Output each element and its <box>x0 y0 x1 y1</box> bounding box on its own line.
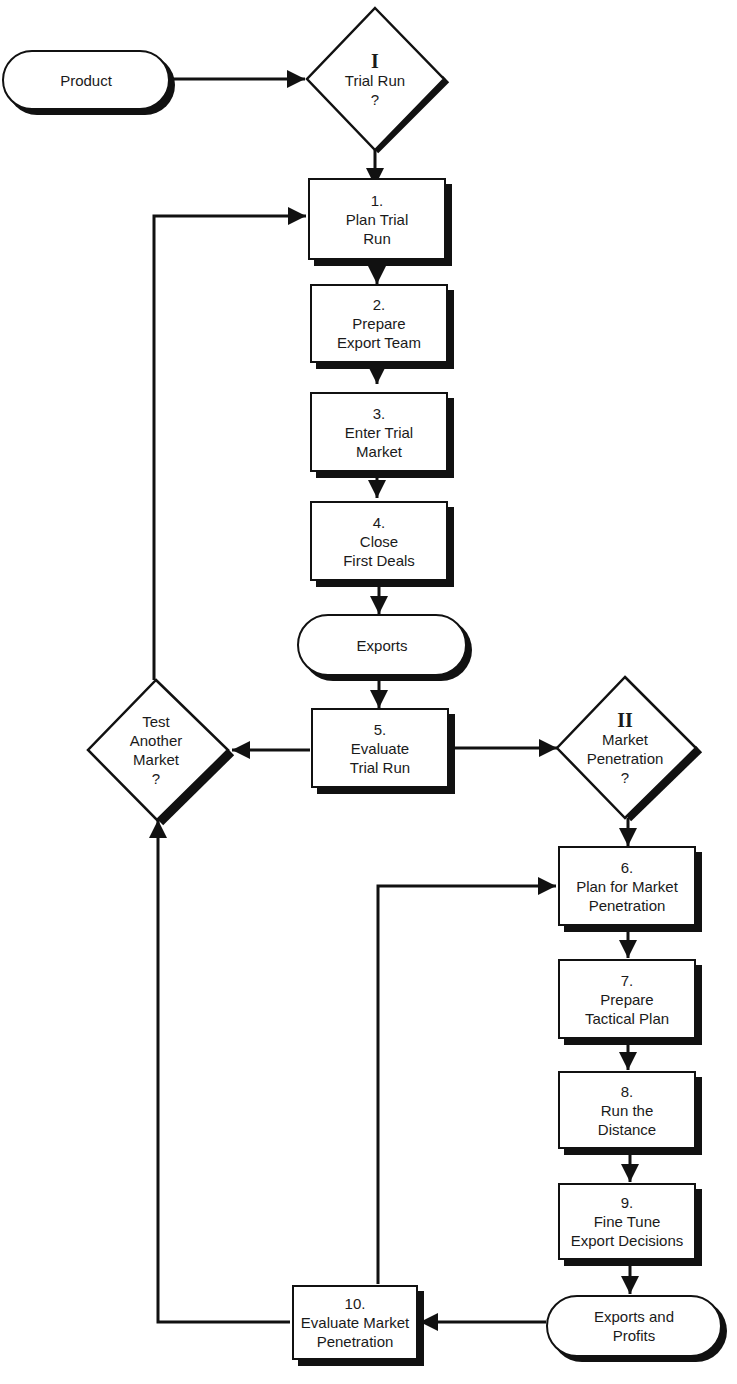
step-label-line2: Export Decisions <box>571 1231 684 1250</box>
decision-question-mark: ? <box>152 769 160 788</box>
decision-question-mark: ? <box>371 90 379 109</box>
product-label: Product <box>60 71 112 90</box>
step-label-line1: Prepare <box>600 990 653 1009</box>
step-number: 1. <box>371 191 384 210</box>
step-label-line2: Penetration <box>317 1332 394 1351</box>
step-5-evaluate-trial-run: 5. Evaluate Trial Run <box>311 708 449 788</box>
step-number: 9. <box>621 1193 634 1212</box>
decision-label-line1: Market <box>602 730 648 749</box>
step-label-line1: Run the <box>601 1101 654 1120</box>
step-label-line2: Run <box>363 229 391 248</box>
step-number: 4. <box>373 513 386 532</box>
step-label-line1: Close <box>360 532 398 551</box>
decision-label-line2: Another <box>130 731 183 750</box>
step-number: 7. <box>621 971 634 990</box>
step-10-evaluate-market-penetration: 10. Evaluate Market Penetration <box>292 1285 418 1360</box>
decision-roman-numeral: I <box>371 51 379 71</box>
step-number: 3. <box>373 404 386 423</box>
step-label-line1: Evaluate <box>351 739 409 758</box>
terminal-label-line1: Exports and <box>594 1307 674 1326</box>
exports-terminal: Exports <box>297 614 467 676</box>
start-product-terminal: Product <box>2 50 170 110</box>
step-1-plan-trial-run: 1. Plan Trial Run <box>308 178 446 260</box>
step-number: 5. <box>374 720 387 739</box>
decision-label-line1: Test <box>142 712 170 731</box>
step-label-line2: Tactical Plan <box>585 1009 669 1028</box>
step-label-line1: Plan for Market <box>576 877 678 896</box>
step-9-fine-tune-export-decisions: 9. Fine Tune Export Decisions <box>558 1183 696 1260</box>
step-number: 6. <box>621 858 634 877</box>
step-label-line2: First Deals <box>343 551 415 570</box>
decision-label-line2: Penetration <box>587 749 664 768</box>
step-label-line1: Enter Trial <box>345 423 413 442</box>
step-3-enter-trial-market: 3. Enter Trial Market <box>310 392 448 472</box>
step-number: 10. <box>345 1294 366 1313</box>
step-number: 8. <box>621 1082 634 1101</box>
step-7-prepare-tactical-plan: 7. Prepare Tactical Plan <box>558 959 696 1039</box>
step-label-line2: Export Team <box>337 333 421 352</box>
step-label-line1: Prepare <box>352 314 405 333</box>
decision-test-another-market: Test Another Market ? <box>100 700 212 800</box>
step-2-prepare-export-team: 2. Prepare Export Team <box>310 284 448 363</box>
decision-label: Trial Run <box>345 71 405 90</box>
step-label-line2: Penetration <box>589 896 666 915</box>
step-4-close-first-deals: 4. Close First Deals <box>310 501 448 581</box>
step-6-plan-for-market-penetration: 6. Plan for Market Penetration <box>558 846 696 926</box>
decision-trial-run: I Trial Run ? <box>315 40 435 120</box>
decision-roman-numeral: II <box>617 710 633 730</box>
decision-label-line3: Market <box>133 750 179 769</box>
step-label-line2: Market <box>356 442 402 461</box>
exports-and-profits-terminal: Exports and Profits <box>546 1295 722 1357</box>
decision-market-penetration: II Market Penetration ? <box>562 702 688 794</box>
step-label-line1: Plan Trial <box>346 210 409 229</box>
terminal-label-line2: Profits <box>613 1326 656 1345</box>
step-label-line1: Fine Tune <box>594 1212 661 1231</box>
step-8-run-the-distance: 8. Run the Distance <box>558 1071 696 1149</box>
decision-question-mark: ? <box>621 768 629 787</box>
step-label-line2: Distance <box>598 1120 656 1139</box>
exports-label: Exports <box>357 636 408 655</box>
step-number: 2. <box>373 295 386 314</box>
step-label-line1: Evaluate Market <box>301 1313 409 1332</box>
step-label-line2: Trial Run <box>350 758 410 777</box>
